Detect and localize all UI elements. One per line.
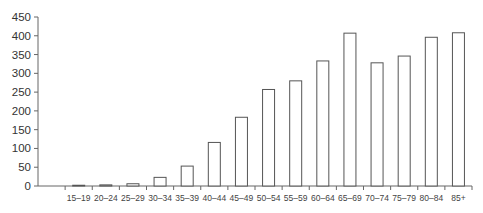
x-category-label: 75–79	[392, 193, 416, 203]
x-category-label: 65–69	[338, 193, 362, 203]
bar-chart: 050100150200250300350400450 15–1920–2425…	[0, 0, 483, 213]
x-category-label: 55–59	[284, 193, 308, 203]
x-category-label: 50–54	[257, 193, 281, 203]
bar-60–64	[317, 61, 329, 186]
y-tick-label: 0	[25, 180, 31, 192]
x-category-label: 70–74	[365, 193, 389, 203]
x-category-label: 85+	[451, 193, 465, 203]
x-category-label: 80–84	[419, 193, 443, 203]
bar-80–84	[425, 37, 437, 186]
y-tick-label: 50	[18, 161, 31, 173]
bar-20–24	[100, 185, 112, 186]
x-category-label: 15–19	[67, 193, 91, 203]
x-category-label: 25–29	[121, 193, 145, 203]
y-tick-label: 100	[12, 142, 31, 154]
bars	[73, 33, 465, 186]
x-category-label: 20–24	[94, 193, 118, 203]
bar-75–79	[398, 56, 410, 186]
bar-25–29	[127, 184, 139, 186]
x-category-label: 45–49	[230, 193, 254, 203]
bar-40–44	[208, 142, 220, 186]
x-axis: 15–1920–2425–2930–3435–3940–4445–4950–54…	[38, 186, 472, 203]
y-tick-label: 350	[12, 49, 31, 61]
y-tick-label: 400	[12, 30, 31, 42]
y-tick-label: 450	[12, 11, 31, 23]
bar-15–19	[73, 185, 85, 186]
x-category-label: 60–64	[311, 193, 335, 203]
bar-65–69	[344, 33, 356, 186]
bar-35–39	[181, 166, 193, 186]
bar-50–54	[263, 89, 275, 186]
y-tick-label: 200	[12, 105, 31, 117]
y-tick-label: 300	[12, 67, 31, 79]
x-category-label: 30–34	[148, 193, 172, 203]
bar-55–59	[290, 81, 302, 186]
y-tick-label: 250	[12, 86, 31, 98]
bar-85+	[452, 33, 464, 186]
bar-45–49	[235, 117, 247, 186]
bar-30–34	[154, 177, 166, 186]
y-axis: 050100150200250300350400450	[12, 11, 38, 192]
x-category-label: 40–44	[202, 193, 226, 203]
y-tick-label: 150	[12, 124, 31, 136]
x-category-label: 35–39	[175, 193, 199, 203]
bar-70–74	[371, 63, 383, 186]
